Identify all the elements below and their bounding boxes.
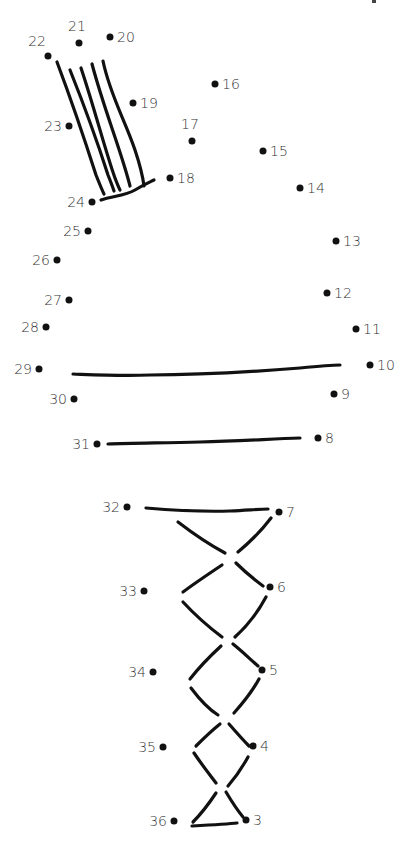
dot-label-3: 3 bbox=[253, 813, 262, 827]
dot-label-22: 22 bbox=[28, 34, 46, 48]
dot-7[interactable] bbox=[276, 509, 283, 516]
dot-32[interactable] bbox=[124, 504, 131, 511]
dot-5[interactable] bbox=[259, 667, 266, 674]
drawn-stroke bbox=[190, 646, 221, 679]
dot-10[interactable] bbox=[367, 362, 374, 369]
dot-12[interactable] bbox=[324, 290, 331, 297]
dot-30[interactable] bbox=[71, 396, 78, 403]
dot-35[interactable] bbox=[160, 744, 167, 751]
dot-label-9: 9 bbox=[341, 387, 350, 401]
dot-label-30: 30 bbox=[49, 392, 67, 406]
dot-label-12: 12 bbox=[334, 286, 352, 300]
dot-label-33: 33 bbox=[119, 584, 137, 598]
dot-18[interactable] bbox=[167, 175, 174, 182]
dot-9[interactable] bbox=[331, 391, 338, 398]
dot-to-dot-puzzle: 3456789101112131415161718192021222324252… bbox=[0, 0, 415, 850]
dot-label-28: 28 bbox=[21, 320, 39, 334]
dot-label-11: 11 bbox=[363, 322, 381, 336]
drawn-stroke bbox=[178, 522, 225, 553]
drawn-stroke bbox=[70, 70, 114, 191]
dot-label-18: 18 bbox=[177, 171, 195, 185]
drawn-stroke bbox=[228, 757, 248, 786]
dot-label-29: 29 bbox=[14, 362, 32, 376]
drawn-stroke bbox=[236, 563, 263, 586]
dot-label-13: 13 bbox=[343, 234, 361, 248]
dot-31[interactable] bbox=[94, 441, 101, 448]
dot-20[interactable] bbox=[107, 34, 114, 41]
drawn-stroke bbox=[193, 793, 216, 822]
dot-27[interactable] bbox=[66, 297, 73, 304]
dot-14[interactable] bbox=[297, 185, 304, 192]
dot-label-8: 8 bbox=[325, 431, 334, 445]
dot-label-32: 32 bbox=[102, 500, 120, 514]
dot-label-5: 5 bbox=[269, 663, 278, 677]
drawn-stroke bbox=[235, 597, 266, 637]
drawn-stroke bbox=[81, 68, 120, 190]
dot-17[interactable] bbox=[189, 138, 196, 145]
dot-13[interactable] bbox=[333, 238, 340, 245]
dot-label-20: 20 bbox=[117, 30, 135, 44]
dot-label-24: 24 bbox=[67, 195, 85, 209]
dot-15[interactable] bbox=[260, 148, 267, 155]
dot-19[interactable] bbox=[130, 100, 137, 107]
dot-16[interactable] bbox=[212, 81, 219, 88]
dot-label-23: 23 bbox=[44, 119, 62, 133]
pre-drawn-lines bbox=[0, 0, 415, 850]
dot-33[interactable] bbox=[141, 588, 148, 595]
drawn-stroke bbox=[194, 753, 216, 783]
dot-label-27: 27 bbox=[44, 293, 62, 307]
drawn-stroke bbox=[183, 565, 222, 592]
drawn-stroke bbox=[229, 724, 249, 746]
dot-label-34: 34 bbox=[128, 665, 146, 679]
dot-label-35: 35 bbox=[138, 740, 156, 754]
dot-label-7: 7 bbox=[286, 505, 295, 519]
drawn-stroke bbox=[233, 644, 258, 666]
drawn-stroke bbox=[192, 823, 237, 826]
drawn-stroke bbox=[226, 792, 243, 817]
dot-23[interactable] bbox=[66, 123, 73, 130]
drawn-stroke bbox=[196, 724, 220, 746]
dot-29[interactable] bbox=[36, 366, 43, 373]
dot-24[interactable] bbox=[89, 199, 96, 206]
dot-28[interactable] bbox=[43, 324, 50, 331]
dot-label-26: 26 bbox=[32, 253, 50, 267]
dot-label-10: 10 bbox=[377, 358, 395, 372]
dot-34[interactable] bbox=[150, 669, 157, 676]
dot-26[interactable] bbox=[54, 257, 61, 264]
dot-label-15: 15 bbox=[270, 144, 288, 158]
dot-22[interactable] bbox=[45, 53, 52, 60]
dot-4[interactable] bbox=[250, 743, 257, 750]
drawn-stroke bbox=[146, 508, 268, 511]
dot-11[interactable] bbox=[353, 326, 360, 333]
dot-label-17: 17 bbox=[181, 117, 199, 131]
dot-label-6: 6 bbox=[277, 580, 286, 594]
dot-label-31: 31 bbox=[72, 437, 90, 451]
dot-label-25: 25 bbox=[63, 224, 81, 238]
dot-label-21: 21 bbox=[68, 19, 86, 33]
dot-25[interactable] bbox=[85, 228, 92, 235]
drawn-stroke bbox=[73, 365, 340, 375]
drawn-stroke bbox=[101, 180, 154, 200]
drawn-stroke bbox=[183, 602, 222, 637]
drawn-stroke bbox=[238, 518, 271, 552]
dot-label-4: 4 bbox=[260, 739, 269, 753]
drawn-stroke bbox=[191, 688, 218, 715]
dot-label-14: 14 bbox=[307, 181, 325, 195]
dot-6[interactable] bbox=[267, 584, 274, 591]
dot-3[interactable] bbox=[243, 817, 250, 824]
drawn-stroke bbox=[108, 438, 300, 444]
dot-label-16: 16 bbox=[222, 77, 240, 91]
dot-36[interactable] bbox=[171, 818, 178, 825]
dot-label-19: 19 bbox=[140, 96, 158, 110]
dot-21[interactable] bbox=[76, 40, 83, 47]
drawn-stroke bbox=[234, 679, 259, 713]
dot-8[interactable] bbox=[315, 435, 322, 442]
dot-label-36: 36 bbox=[149, 814, 167, 828]
